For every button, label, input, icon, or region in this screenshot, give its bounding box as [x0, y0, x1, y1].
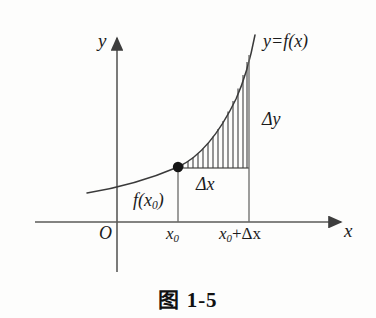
- x0-base: x: [166, 224, 174, 243]
- f-of-x0-lead: f(x: [133, 190, 152, 210]
- y-axis-label: y: [98, 31, 106, 50]
- delta-x-label: Δx: [196, 175, 215, 193]
- delta-y-label: Δy: [262, 110, 281, 128]
- x0-plus-dx-base: x: [219, 224, 227, 243]
- x0-plus-dx-tail: +Δx: [232, 224, 261, 243]
- x0-plus-dx-tick-label: x0+Δx: [219, 225, 261, 244]
- origin-label: O: [99, 224, 112, 242]
- delta-y-hatch-group: [183, 62, 247, 168]
- figure-container: y x y=f(x) O x0 x0+Δx f(x0) Δx Δy 图 1-5: [0, 0, 376, 318]
- diagram-canvas: [0, 0, 376, 318]
- f-of-x0-tail: ): [158, 190, 164, 210]
- point-marker-x0: [173, 162, 183, 172]
- f-of-x0-label: f(x0): [133, 191, 164, 211]
- figure-caption: 图 1-5: [0, 283, 376, 313]
- curve-equation-label: y=f(x): [263, 32, 308, 50]
- x0-subscript: 0: [174, 232, 179, 244]
- function-curve: [87, 35, 255, 193]
- x0-tick-label: x0: [166, 225, 179, 244]
- x-axis-label: x: [344, 221, 352, 240]
